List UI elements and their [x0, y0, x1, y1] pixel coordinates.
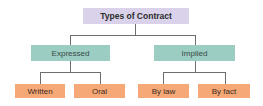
- connector-implied-bar: [163, 72, 226, 73]
- connector-expressed-drop: [70, 35, 71, 45]
- node-by-fact: By fact: [198, 84, 250, 98]
- node-expressed: Expressed: [31, 45, 110, 61]
- connector-root-stem: [135, 24, 136, 35]
- node-types-of-contract: Types of Contract: [83, 8, 189, 24]
- connector-root-bar: [70, 35, 196, 36]
- connector-expressed-bar: [40, 72, 101, 73]
- connector-oral-drop: [100, 72, 101, 84]
- connector-implied-drop: [195, 35, 196, 45]
- connector-expressed-stem: [70, 61, 71, 72]
- node-implied: Implied: [154, 45, 235, 61]
- node-oral: Oral: [74, 84, 125, 98]
- node-written: Written: [15, 84, 65, 98]
- connector-written-drop: [40, 72, 41, 84]
- connector-implied-stem: [195, 61, 196, 72]
- contract-types-diagram: Types of Contract Expressed Implied Writ…: [0, 0, 263, 106]
- connector-bylaw-drop: [163, 72, 164, 84]
- connector-byfact-drop: [225, 72, 226, 84]
- node-by-law: By law: [138, 84, 189, 98]
